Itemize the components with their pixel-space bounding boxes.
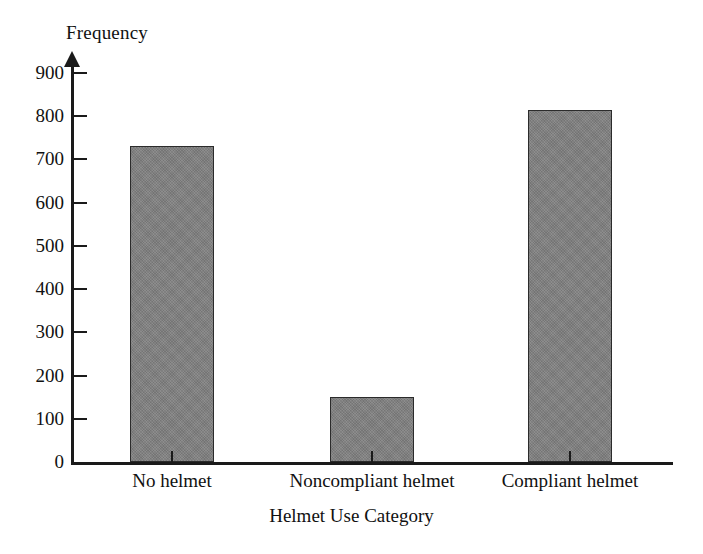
y-axis-tick-label: 300 [36, 322, 65, 341]
y-axis-title: Frequency [66, 22, 148, 44]
y-axis-tick-label: 100 [36, 409, 65, 428]
bar [130, 146, 214, 462]
y-axis-tick [74, 245, 87, 247]
x-axis-tick [569, 451, 571, 463]
x-axis-category-label: Noncompliant helmet [289, 470, 454, 492]
y-axis-tick [74, 202, 87, 204]
y-axis-tick-label: 900 [36, 63, 65, 82]
y-axis-tick-label: 0 [55, 452, 65, 471]
y-axis-tick [74, 375, 87, 377]
y-axis-tick-label: 600 [36, 193, 65, 212]
bar-chart: Frequency 0100200300400500600700800900 N… [0, 0, 703, 554]
y-axis-tick-label: 800 [36, 106, 65, 125]
y-axis-tick [74, 158, 87, 160]
bar [528, 110, 612, 462]
y-axis-tick [74, 418, 87, 420]
y-axis-tick-label: 400 [36, 279, 65, 298]
x-axis-tick [371, 451, 373, 463]
x-axis-category-label: No helmet [132, 470, 212, 492]
x-axis-tick [171, 451, 173, 463]
y-axis-tick [74, 115, 87, 117]
y-axis-line [71, 63, 74, 464]
y-axis-arrow-icon [64, 51, 80, 67]
y-axis-tick [74, 72, 87, 74]
y-axis-tick [74, 331, 87, 333]
x-axis-title: Helmet Use Category [0, 505, 703, 527]
y-axis-tick-label: 500 [36, 236, 65, 255]
y-axis-tick-label: 200 [36, 366, 65, 385]
y-axis-tick [74, 288, 87, 290]
y-axis-tick-label: 700 [36, 149, 65, 168]
x-axis-category-label: Compliant helmet [502, 470, 639, 492]
